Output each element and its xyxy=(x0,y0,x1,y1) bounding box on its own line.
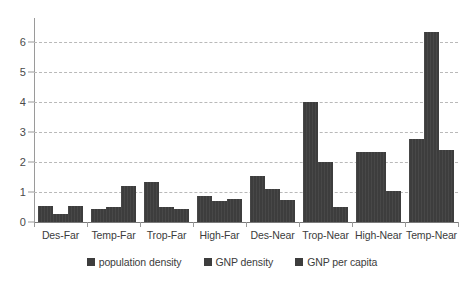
bar xyxy=(53,214,68,222)
bar xyxy=(68,206,83,222)
bar xyxy=(303,102,318,222)
y-tick-label-1: 1 xyxy=(4,186,26,198)
x-axis-ticks xyxy=(34,222,458,227)
bar xyxy=(439,150,454,222)
y-tick-label-6: 6 xyxy=(4,36,26,48)
x-axis-label: Temp-Far xyxy=(87,229,140,241)
legend-label: GNP density xyxy=(216,256,274,268)
x-tick-mark xyxy=(352,222,353,227)
bar-group xyxy=(140,24,193,222)
x-tick-mark xyxy=(34,222,35,227)
bar-group xyxy=(87,24,140,222)
bar xyxy=(159,207,174,222)
bar-chart: 0123456 Des-FarTemp-FarTrop-FarHigh-FarD… xyxy=(0,0,464,282)
bar xyxy=(409,139,424,222)
x-axis-label: Des-Far xyxy=(34,229,87,241)
bar xyxy=(386,191,401,223)
bar-group xyxy=(299,24,352,222)
legend-item[interactable]: GNP density xyxy=(204,256,274,268)
x-axis-label: High-Near xyxy=(352,229,405,241)
bar xyxy=(250,176,265,222)
x-tick-mark xyxy=(87,222,88,227)
bar xyxy=(121,186,136,222)
bar xyxy=(144,182,159,222)
legend-swatch-icon xyxy=(204,258,212,266)
plot-area xyxy=(34,24,458,222)
bar-group xyxy=(193,24,246,222)
bar-group xyxy=(405,24,458,222)
x-tick-mark xyxy=(246,222,247,227)
bar xyxy=(371,152,386,222)
x-axis-label: Trop-Far xyxy=(140,229,193,241)
x-axis-label: Temp-Near xyxy=(405,229,458,241)
x-tick-mark xyxy=(458,222,459,227)
bar-group xyxy=(34,24,87,222)
legend-label: GNP per capita xyxy=(307,256,377,268)
y-tick-label-5: 5 xyxy=(4,66,26,78)
y-tick-label-0: 0 xyxy=(4,216,26,228)
bar xyxy=(265,189,280,222)
y-tick-label-3: 3 xyxy=(4,126,26,138)
chart-legend: population densityGNP densityGNP per cap… xyxy=(0,256,464,268)
bar xyxy=(333,207,348,222)
legend-swatch-icon xyxy=(87,258,95,266)
legend-item[interactable]: GNP per capita xyxy=(295,256,377,268)
bar xyxy=(212,201,227,222)
x-tick-mark xyxy=(193,222,194,227)
bar-groups xyxy=(34,24,458,222)
x-tick-mark xyxy=(140,222,141,227)
x-tick-mark xyxy=(299,222,300,227)
bar xyxy=(280,200,295,223)
bar xyxy=(424,32,439,223)
x-axis-labels: Des-FarTemp-FarTrop-FarHigh-FarDes-NearT… xyxy=(34,229,458,241)
legend-label: population density xyxy=(99,256,182,268)
x-axis-label: High-Far xyxy=(193,229,246,241)
bar xyxy=(38,206,53,222)
bar xyxy=(356,152,371,222)
bar xyxy=(197,196,212,222)
legend-item[interactable]: population density xyxy=(87,256,182,268)
bar-group xyxy=(246,24,299,222)
bar xyxy=(318,162,333,222)
y-tick-label-2: 2 xyxy=(4,156,26,168)
legend-swatch-icon xyxy=(295,258,303,266)
x-axis-label: Des-Near xyxy=(246,229,299,241)
bar xyxy=(174,209,189,222)
x-axis-label: Trop-Near xyxy=(299,229,352,241)
bar xyxy=(106,207,121,222)
x-tick-mark xyxy=(405,222,406,227)
y-tick-label-4: 4 xyxy=(4,96,26,108)
bar-group xyxy=(352,24,405,222)
bar xyxy=(91,209,106,222)
bar xyxy=(227,199,242,222)
